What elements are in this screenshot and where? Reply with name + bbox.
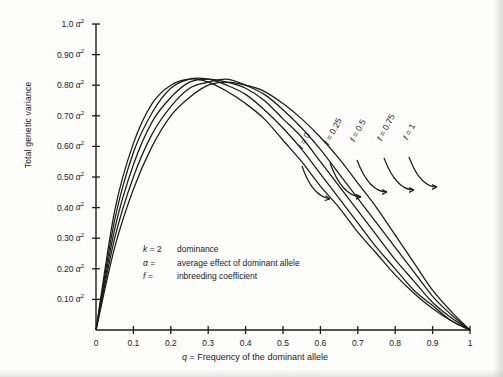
curve-label-arrow (302, 166, 330, 199)
curve-f-1 (96, 79, 470, 330)
legend-symbol: f = (143, 270, 177, 284)
curve-f-0-5 (96, 79, 470, 330)
scan-edge-shadow-bottom (0, 369, 503, 377)
data-curves (96, 78, 470, 330)
legend-description: dominance (177, 243, 219, 257)
legend-description: average effect of dominant allele (177, 257, 300, 271)
curve-f-0-25 (96, 79, 470, 330)
plot-area (0, 0, 503, 377)
legend-symbol: k = 2 (143, 243, 177, 257)
curve-label-arrow (384, 158, 414, 190)
figure-page: Total genetic variance q = Frequency of … (0, 0, 503, 377)
legend-symbol: α = (143, 257, 177, 271)
legend-row: f = inbreeding coefficient (143, 270, 300, 284)
curve-f-0-75 (96, 78, 470, 330)
legend-description: inbreeding coefficient (177, 270, 257, 284)
legend-row: α = average effect of dominant allele (143, 257, 300, 271)
scan-edge-shadow-right (493, 0, 503, 377)
curve-label-arrow (409, 157, 437, 187)
legend-notes: k = 2dominanceα = average effect of domi… (143, 243, 300, 284)
legend-row: k = 2dominance (143, 243, 300, 257)
